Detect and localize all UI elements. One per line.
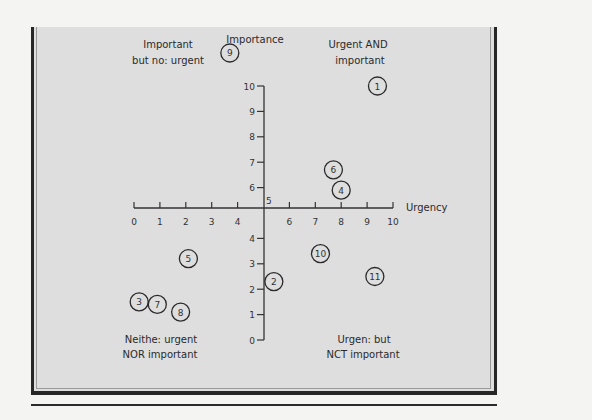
point-label: 8	[178, 308, 184, 318]
y-tick-label: 0	[249, 336, 255, 346]
quadrant-label-bottom-right-line1: Urgen: but	[337, 334, 390, 345]
y-axis-ticks: 01234678910	[244, 82, 264, 346]
axis-origin-label: 5	[266, 196, 272, 206]
point-label: 6	[331, 165, 337, 175]
data-point-10: 10	[311, 245, 329, 263]
y-tick-label: 4	[249, 234, 255, 244]
quadrant-label-bottom-right-line2: NCT important	[326, 349, 399, 360]
point-label: 9	[227, 48, 233, 58]
data-point-5: 5	[179, 250, 197, 268]
y-tick-label: 10	[244, 82, 256, 92]
x-tick-label: 1	[157, 217, 163, 227]
x-tick-label: 4	[235, 217, 241, 227]
point-label: 7	[154, 300, 160, 310]
quadrant-label-bottom-left-line2: NOR important	[123, 349, 198, 360]
y-tick-label: 8	[249, 132, 255, 142]
x-tick-label: 3	[209, 217, 215, 227]
data-point-6: 6	[324, 161, 342, 179]
y-tick-label: 7	[249, 158, 255, 168]
x-tick-label: 6	[287, 217, 293, 227]
point-label: 2	[271, 277, 277, 287]
y-tick-label: 1	[249, 310, 255, 320]
data-point-1: 1	[368, 77, 386, 95]
quadrant-label-top-right-line1: Urgent AND	[328, 39, 388, 50]
x-tick-label: 9	[364, 217, 370, 227]
data-point-8: 8	[172, 303, 190, 321]
y-tick-label: 2	[249, 285, 255, 295]
y-axis-label: Importance	[226, 34, 283, 45]
point-label: 4	[338, 186, 344, 196]
data-point-7: 7	[148, 295, 166, 313]
x-tick-label: 2	[183, 217, 189, 227]
point-label: 10	[315, 249, 327, 259]
point-label: 1	[375, 82, 381, 92]
data-point-3: 3	[130, 293, 148, 311]
x-tick-label: 8	[338, 217, 344, 227]
x-axis-label: Urgency	[406, 202, 448, 213]
point-label: 3	[136, 297, 142, 307]
x-tick-label: 7	[312, 217, 318, 227]
urgency-importance-matrix: 01234678910 01234678910 5 Urgency Import…	[0, 0, 592, 420]
data-point-9: 9	[221, 44, 239, 62]
y-tick-label: 9	[249, 107, 255, 117]
x-tick-label: 0	[131, 217, 137, 227]
point-label: 11	[369, 272, 380, 282]
data-point-2: 2	[265, 273, 283, 291]
data-point-11: 11	[366, 268, 384, 286]
data-point-4: 4	[332, 181, 350, 199]
x-tick-label: 10	[387, 217, 399, 227]
quadrant-label-top-left-line1: Important	[143, 39, 193, 50]
quadrant-label-top-left-line2: but no: urgent	[132, 55, 204, 66]
quadrant-label-top-right-line2: important	[335, 55, 384, 66]
quadrant-label-bottom-left-line1: Neithe: urgent	[125, 334, 197, 345]
y-tick-label: 3	[249, 259, 255, 269]
y-tick-label: 6	[249, 183, 255, 193]
point-label: 5	[186, 254, 192, 264]
